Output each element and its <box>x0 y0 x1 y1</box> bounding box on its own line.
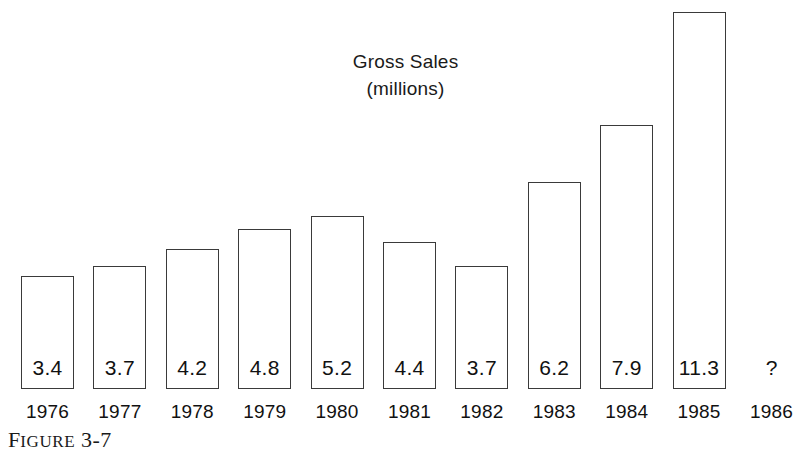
bar-group: 6.21983 <box>528 0 581 457</box>
bar-value-label-1985: 11.3 <box>673 357 726 378</box>
bar-group: 7.91984 <box>600 0 653 457</box>
bar-unknown-marker-1986: ? <box>745 357 798 378</box>
x-axis-label-1986: 1986 <box>745 402 798 421</box>
x-axis-label-1976: 1976 <box>21 402 74 421</box>
caption-number: 3-7 <box>75 427 111 452</box>
bar-group: 4.21978 <box>166 0 219 457</box>
x-axis-label-1982: 1982 <box>455 402 508 421</box>
bar-group: 4.41981 <box>383 0 436 457</box>
bar-value-label-1981: 4.4 <box>383 357 436 378</box>
bar-chart-plot: 3.419763.719774.219784.819795.219804.419… <box>0 0 811 457</box>
bar-1984 <box>600 125 653 389</box>
bar-group: 4.81979 <box>238 0 291 457</box>
x-axis-label-1979: 1979 <box>238 402 291 421</box>
bar-value-label-1978: 4.2 <box>166 357 219 378</box>
x-axis-label-1980: 1980 <box>311 402 364 421</box>
figure-caption: FIGURE 3-7 <box>8 427 112 455</box>
caption-lead: F <box>8 427 20 452</box>
caption-rest: IGURE <box>20 432 75 451</box>
x-axis-label-1984: 1984 <box>600 402 653 421</box>
bar-value-label-1984: 7.9 <box>600 357 653 378</box>
bar-group: 11.31985 <box>673 0 726 457</box>
x-axis-label-1981: 1981 <box>383 402 436 421</box>
bar-value-label-1979: 4.8 <box>238 357 291 378</box>
x-axis-label-1985: 1985 <box>673 402 726 421</box>
bar-group: 3.71982 <box>455 0 508 457</box>
bar-1985 <box>673 12 726 389</box>
bar-value-label-1982: 3.7 <box>455 357 508 378</box>
bar-group: 3.41976 <box>21 0 74 457</box>
x-axis-label-1978: 1978 <box>166 402 219 421</box>
figure-page: Gross Sales (millions) 3.419763.719774.2… <box>0 0 811 457</box>
bar-value-label-1976: 3.4 <box>21 357 74 378</box>
bar-value-label-1983: 6.2 <box>528 357 581 378</box>
bar-group: 5.21980 <box>311 0 364 457</box>
bar-group: ?1986 <box>745 0 798 457</box>
x-axis-label-1977: 1977 <box>93 402 146 421</box>
bar-value-label-1977: 3.7 <box>93 357 146 378</box>
bar-value-label-1980: 5.2 <box>311 357 364 378</box>
bar-group: 3.71977 <box>93 0 146 457</box>
x-axis-label-1983: 1983 <box>528 402 581 421</box>
